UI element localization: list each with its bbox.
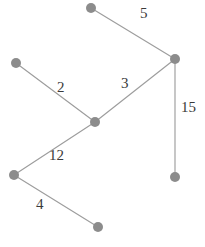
graph-edge <box>95 59 175 122</box>
edge-weight-label: 4 <box>36 197 44 212</box>
graph-edge <box>14 175 98 227</box>
graph-node <box>86 3 96 13</box>
weighted-graph-diagram: 52315124 <box>0 0 205 247</box>
edge-weight-label: 2 <box>57 80 65 95</box>
edge-weight-label: 5 <box>140 6 148 21</box>
graph-node <box>90 117 100 127</box>
graph-edge <box>16 63 95 122</box>
graph-node <box>170 54 180 64</box>
edge-weight-label: 15 <box>181 100 196 115</box>
edge-weight-label: 12 <box>49 148 64 163</box>
nodes-group <box>9 3 180 232</box>
graph-node <box>170 172 180 182</box>
graph-svg-canvas <box>0 0 205 247</box>
graph-node <box>93 222 103 232</box>
graph-node <box>11 58 21 68</box>
graph-edge <box>91 8 175 59</box>
graph-node <box>9 170 19 180</box>
edge-weight-label: 3 <box>121 76 129 91</box>
